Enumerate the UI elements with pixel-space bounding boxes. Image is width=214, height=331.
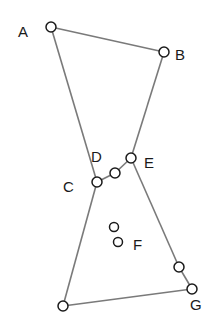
edge-a-b — [51, 27, 164, 52]
diagram-canvas: A B C D E F G — [0, 0, 214, 331]
point-b[interactable] — [159, 47, 169, 57]
point-bottom-left[interactable] — [58, 301, 68, 311]
label-f: F — [133, 236, 142, 253]
edge-b-e — [131, 52, 164, 158]
label-a: A — [18, 23, 28, 40]
point-f-upper[interactable] — [110, 223, 119, 232]
label-c: C — [63, 178, 74, 195]
point-a[interactable] — [46, 22, 56, 32]
point-g[interactable] — [187, 284, 197, 294]
label-d: D — [91, 148, 102, 165]
edge-bottom-left-g — [63, 289, 192, 306]
geometry-diagram: A B C D E F G — [0, 0, 214, 331]
label-e: E — [144, 154, 154, 171]
point-d[interactable] — [110, 168, 120, 178]
point-c[interactable] — [92, 177, 102, 187]
point-e[interactable] — [126, 153, 136, 163]
edge-c-bottom-left — [63, 182, 97, 306]
point-f-lower[interactable] — [114, 238, 123, 247]
label-b: B — [175, 46, 185, 63]
point-g-upper[interactable] — [174, 262, 184, 272]
label-g: G — [190, 296, 202, 313]
